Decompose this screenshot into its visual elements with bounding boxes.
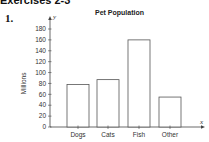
y-axis-label: Millions bbox=[20, 72, 27, 94]
y-axis-arrow-icon bbox=[48, 16, 52, 20]
y-tick-label: 0 bbox=[42, 123, 46, 130]
bar-chart: yx020406080100120140160180MillionsDogsCa… bbox=[0, 0, 209, 142]
bar-cats bbox=[97, 80, 119, 127]
y-tick-label: 120 bbox=[35, 58, 46, 65]
bar-dogs bbox=[67, 85, 89, 127]
bar-fish bbox=[128, 40, 150, 127]
bar-other bbox=[159, 97, 181, 127]
y-tick-label: 140 bbox=[35, 47, 46, 54]
y-tick-label: 80 bbox=[39, 80, 47, 87]
y-tick-label: 160 bbox=[35, 36, 46, 43]
y-axis-variable: y bbox=[52, 13, 57, 21]
x-tick-label: Cats bbox=[101, 131, 115, 138]
y-tick-label: 100 bbox=[35, 69, 46, 76]
y-tick-label: 180 bbox=[35, 25, 46, 32]
y-tick-label: 60 bbox=[39, 91, 47, 98]
y-tick-label: 40 bbox=[39, 101, 47, 108]
x-axis-variable: x bbox=[199, 118, 204, 126]
x-tick-label: Other bbox=[162, 131, 179, 138]
x-tick-label: Dogs bbox=[70, 131, 86, 139]
x-tick-label: Fish bbox=[133, 131, 146, 138]
y-tick-label: 20 bbox=[39, 112, 47, 119]
